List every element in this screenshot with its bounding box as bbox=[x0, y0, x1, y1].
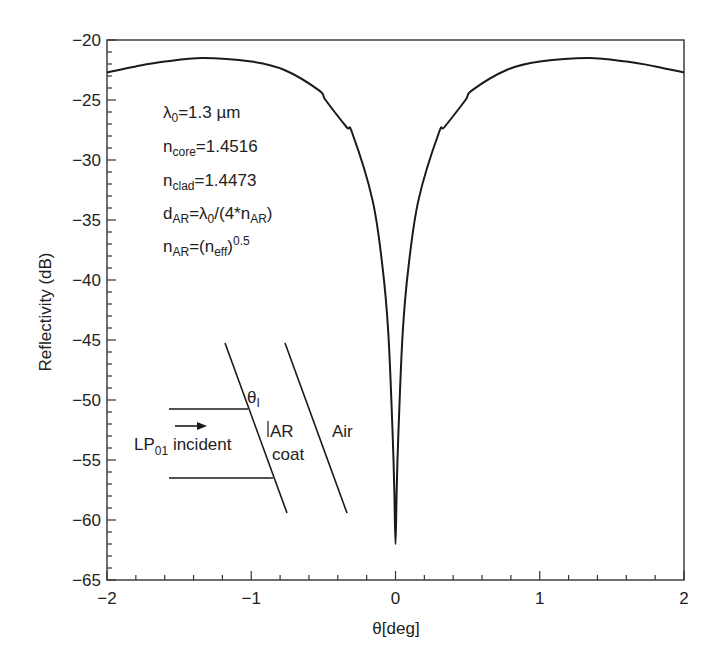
y-tick-label: −55 bbox=[72, 451, 101, 470]
param-lambda: λ0=1.3 µm bbox=[163, 103, 240, 125]
y-tick-label: −60 bbox=[72, 511, 101, 530]
y-tick-label: −50 bbox=[72, 391, 101, 410]
arrow-right-icon bbox=[175, 422, 207, 430]
x-axis-ticks: −2−1012 bbox=[97, 571, 688, 608]
parameter-annotations: λ0=1.3 µm ncore=1.4516 nclad=1.4473 dAR=… bbox=[163, 103, 273, 259]
reflectivity-curve bbox=[107, 58, 684, 544]
incident-label: LP01 incident bbox=[134, 435, 232, 458]
y-tick-label: −65 bbox=[72, 571, 101, 590]
x-axis-label: θ[deg] bbox=[372, 619, 419, 638]
x-tick-label: 0 bbox=[391, 589, 400, 608]
param-nar: nAR=(neff)0.5 bbox=[163, 234, 250, 259]
y-axis-label: Reflectivity (dB) bbox=[36, 252, 55, 371]
y-tick-label: −30 bbox=[72, 151, 101, 170]
reflectivity-chart: −20−25−30−35−40−45−50−55−60−65 −2−1012 θ… bbox=[0, 0, 721, 665]
y-tick-label: −45 bbox=[72, 331, 101, 350]
y-tick-label: −25 bbox=[72, 91, 101, 110]
y-tick-label: −20 bbox=[72, 31, 101, 50]
x-tick-label: −2 bbox=[97, 589, 116, 608]
coat-label: coat bbox=[272, 445, 304, 464]
param-nclad: nclad=1.4473 bbox=[163, 171, 256, 193]
y-tick-label: −40 bbox=[72, 271, 101, 290]
param-ncore: ncore=1.4516 bbox=[163, 137, 258, 159]
x-tick-label: −1 bbox=[242, 589, 261, 608]
y-tick-label: −35 bbox=[72, 211, 101, 230]
ar-label: AR bbox=[270, 422, 294, 441]
x-tick-label: 1 bbox=[535, 589, 544, 608]
angle-label: θI bbox=[247, 388, 260, 410]
y-axis-ticks: −20−25−30−35−40−45−50−55−60−65 bbox=[72, 31, 116, 590]
x-tick-label: 2 bbox=[679, 589, 688, 608]
air-label: Air bbox=[332, 422, 353, 441]
inset-diagram: LP01 incident θI AR coat Air bbox=[134, 343, 353, 513]
param-dar: dAR=λ0/(4*nAR) bbox=[163, 204, 273, 226]
